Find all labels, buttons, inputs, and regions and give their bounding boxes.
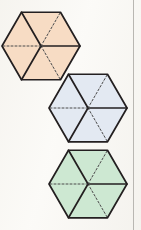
hexagon-green <box>45 141 131 227</box>
figure-canvas <box>0 0 141 230</box>
hexagon-blue <box>45 65 131 151</box>
page-rule-line <box>133 0 134 230</box>
